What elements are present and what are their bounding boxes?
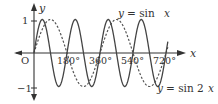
y-axis-label: y (38, 2, 46, 15)
x-axis-label: x (190, 47, 197, 60)
annotation-sin-2x: y = sin 2 x (156, 82, 214, 94)
x-tick-label-180: 180° (57, 55, 80, 66)
x-tick-label-720: 720° (153, 55, 176, 66)
x-tick-label-540: 540° (121, 55, 144, 66)
sine-graph: y x O 1 −1 180° 360° 540° 720° y = sin x… (0, 0, 218, 104)
annotation-sin-2x-x: x (208, 82, 214, 94)
origin-label: O (21, 55, 29, 66)
y-axis-arrow-down-icon (31, 94, 37, 101)
y-tick-label-1: 1 (22, 15, 28, 26)
annotation-sin-x-y: y (117, 7, 125, 19)
y-axis-arrow-up-icon (31, 3, 37, 11)
annotation-sin-x-eq: = sin (127, 7, 155, 19)
x-axis-arrow-right-icon (177, 50, 186, 56)
y-tick-label-neg1: −1 (17, 83, 32, 94)
x-tick-label-360: 360° (89, 55, 112, 66)
annotation-sin-x-x: x (164, 7, 170, 19)
annotation-sin-2x-eq: = sin 2 (166, 82, 204, 94)
annotation-sin-x: y = sin x (117, 7, 170, 19)
annotation-sin-2x-y: y (156, 82, 164, 94)
